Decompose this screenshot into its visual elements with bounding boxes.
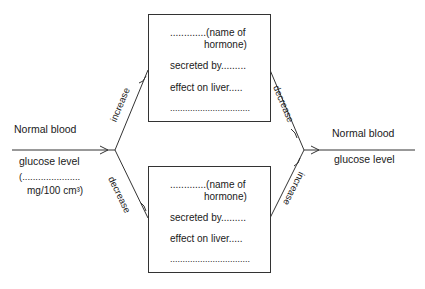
hormone-name-label: hormone) [204,192,247,202]
secreted-by-field[interactable]: secreted by......... [170,61,246,71]
hormone-box-top: .............(name of hormone) secreted … [148,14,271,122]
right-state-line2: glucose level [334,154,395,165]
left-state-line1: Normal blood [14,124,76,135]
hormone-name-label: hormone) [204,40,247,50]
effect-on-liver-field[interactable]: effect on liver..... [170,234,243,244]
left-state-units: mg/100 cm³) [27,186,83,196]
hormone-box-bottom: .............(name of hormone) secreted … [148,166,271,273]
hormone-name-field[interactable]: .............(name of [170,180,246,190]
left-state-blank: (...................... [19,172,80,182]
effect-on-liver-field[interactable]: effect on liver..... [170,83,243,93]
hormone-name-field[interactable]: .............(name of [170,28,246,38]
answer-line[interactable]: ................................ [170,255,250,264]
secreted-by-field[interactable]: secreted by......... [170,213,246,223]
left-state-line2: glucose level [19,156,80,167]
answer-line[interactable]: ................................ [170,104,250,113]
right-state-line1: Normal blood [332,128,394,139]
